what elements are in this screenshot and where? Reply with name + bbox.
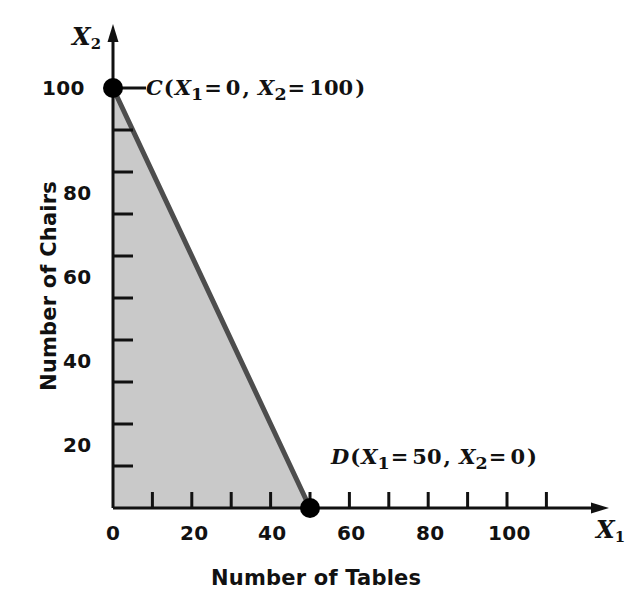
point-c-sub2: 2 (274, 84, 286, 104)
x-axis-variable-label: X1 (596, 515, 625, 546)
point-c-val2: 100 (308, 75, 354, 100)
y-tick-label-20: 20 (63, 433, 91, 457)
point-c-var1: X (175, 75, 191, 100)
x-tick-label-60: 60 (337, 521, 365, 545)
point-d-sub2: 2 (476, 453, 488, 473)
y-axis-title-wrapper: Number of Chairs (37, 166, 61, 406)
y-tick-label-40: 40 (63, 349, 91, 373)
point-c-name: C (146, 75, 163, 100)
point-d-marker[interactable] (300, 498, 320, 518)
y-axis-variable-subscript: 2 (91, 35, 101, 53)
point-d-label: D(X1= 50, X2= 0) (331, 444, 538, 473)
point-c-var2: X (258, 75, 274, 100)
point-c-comma: , (241, 75, 250, 100)
point-d-val2: 0 (509, 444, 526, 469)
x-tick-label-20: 20 (180, 521, 208, 545)
point-d-open-paren: ( (349, 444, 361, 469)
point-c-eq1: = (203, 75, 223, 100)
point-d-close-paren: ) (526, 444, 538, 469)
point-c-close-paren: ) (354, 75, 366, 100)
y-tick-label-100: 100 (42, 76, 85, 100)
point-c-val1: 0 (225, 75, 242, 100)
point-d-var2: X (459, 444, 475, 469)
linear-programming-feasible-region-chart: X2 X1 100 80 60 40 20 0 20 40 60 80 100 … (0, 0, 636, 607)
x-tick-label-100: 100 (488, 521, 531, 545)
x-axis-title: Number of Tables (211, 566, 421, 590)
point-d-comma: , (443, 444, 452, 469)
x-axis-variable-subscript: 1 (615, 528, 625, 546)
point-d-name: D (331, 444, 349, 469)
point-d-eq2: = (488, 444, 508, 469)
point-d-val1: 50 (411, 444, 442, 469)
point-d-var1: X (361, 444, 377, 469)
x-tick-label-0: 0 (106, 521, 120, 545)
y-tick-label-60: 60 (63, 265, 91, 289)
point-d-sub1: 1 (377, 453, 389, 473)
x-axis-variable-letter: X (596, 515, 615, 544)
point-c-eq2: = (287, 75, 307, 100)
point-c-open-paren: ( (163, 75, 175, 100)
y-axis-variable-label: X2 (72, 22, 101, 53)
point-c-marker[interactable] (103, 78, 123, 98)
y-axis-arrowhead (108, 24, 119, 42)
y-axis-title: Number of Chairs (37, 181, 61, 391)
x-tick-label-40: 40 (258, 521, 286, 545)
x-tick-label-80: 80 (416, 521, 444, 545)
point-c-sub1: 1 (191, 84, 203, 104)
y-axis-variable-letter: X (72, 22, 91, 51)
y-tick-label-80: 80 (63, 181, 91, 205)
point-d-eq1: = (390, 444, 410, 469)
point-c-label: C(X1= 0, X2= 100) (146, 75, 366, 104)
x-axis-arrowhead (591, 503, 609, 514)
